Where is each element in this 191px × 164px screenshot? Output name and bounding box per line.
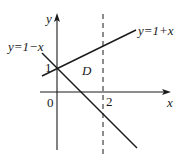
line-label-y-1-plus-x: y=1+x bbox=[138, 24, 174, 37]
region-label-d: D bbox=[82, 64, 91, 77]
x-axis-label: x bbox=[167, 96, 173, 109]
y-axis-label: y bbox=[46, 12, 52, 25]
line-label-y-1-minus-x: y=1−x bbox=[8, 40, 44, 53]
tick-label-x-2: 2 bbox=[106, 95, 113, 108]
origin-label: 0 bbox=[47, 96, 54, 109]
tick-label-y-1: 1 bbox=[45, 61, 52, 74]
